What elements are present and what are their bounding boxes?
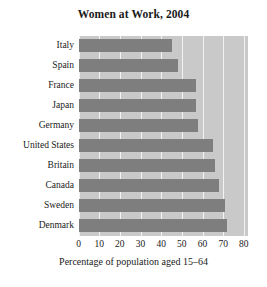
- x-tick-label-60: 60: [198, 239, 208, 249]
- y-tick-label-denmark: Denmark: [0, 220, 74, 230]
- x-tick-label-30: 30: [136, 239, 146, 249]
- bar-japan: [79, 99, 197, 112]
- bar-chart: Women at Work, 2004 ItalySpainFranceJapa…: [0, 0, 267, 287]
- bar-italy: [79, 39, 172, 52]
- bar-row: [79, 56, 249, 76]
- y-tick-label-germany: Germany: [0, 120, 74, 130]
- y-tick-label-united-states: United States: [0, 140, 74, 150]
- x-axis-tick-labels: 01020304050607080: [0, 239, 267, 253]
- bar-germany: [79, 119, 199, 132]
- y-axis-category-labels: ItalySpainFranceJapanGermanyUnited State…: [0, 36, 74, 236]
- y-tick-label-japan: Japan: [0, 100, 74, 110]
- x-tick-label-0: 0: [76, 239, 81, 249]
- x-axis-label: Percentage of population aged 15–64: [0, 256, 267, 267]
- y-tick-label-canada: Canada: [0, 180, 74, 190]
- plot-area: [79, 36, 249, 236]
- bar-denmark: [79, 219, 228, 232]
- bar-united-states: [79, 139, 213, 152]
- y-tick-label-france: France: [0, 80, 74, 90]
- bar-canada: [79, 179, 220, 192]
- bar-sweden: [79, 199, 226, 212]
- bar-row: [79, 76, 249, 96]
- x-tick-label-80: 80: [239, 239, 249, 249]
- bar-row: [79, 116, 249, 136]
- y-tick-label-italy: Italy: [0, 40, 74, 50]
- bar-spain: [79, 59, 178, 72]
- bar-row: [79, 36, 249, 56]
- x-tick-label-20: 20: [115, 239, 125, 249]
- bar-row: [79, 136, 249, 156]
- x-tick-label-40: 40: [156, 239, 166, 249]
- x-tick-label-50: 50: [177, 239, 187, 249]
- bar-series: [79, 36, 249, 236]
- bar-row: [79, 96, 249, 116]
- bar-row: [79, 216, 249, 236]
- bar-britain: [79, 159, 215, 172]
- chart-title: Women at Work, 2004: [0, 8, 267, 20]
- bar-row: [79, 156, 249, 176]
- bar-france: [79, 79, 197, 92]
- bar-row: [79, 176, 249, 196]
- y-tick-label-spain: Spain: [0, 60, 74, 70]
- x-tick-label-70: 70: [218, 239, 228, 249]
- y-tick-label-sweden: Sweden: [0, 200, 74, 210]
- y-tick-label-britain: Britain: [0, 160, 74, 170]
- bar-row: [79, 196, 249, 216]
- x-tick-label-10: 10: [94, 239, 104, 249]
